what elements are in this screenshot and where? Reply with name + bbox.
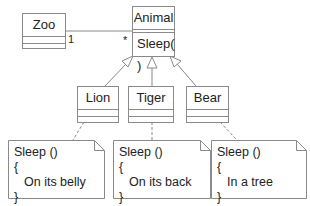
attributes-compartment (187, 110, 228, 117)
attributes-compartment (78, 110, 118, 117)
note-line: } (14, 190, 104, 205)
class-name: Bear (187, 87, 228, 110)
inheritance-arrow-icon (122, 56, 133, 67)
operation-sleep: Sleep( ) (133, 33, 174, 77)
note-line: { (119, 160, 210, 175)
operations-compartment (23, 44, 65, 50)
note-line: } (217, 190, 306, 205)
class-bear[interactable]: Bear (186, 86, 229, 123)
note-line: Sleep () (119, 145, 210, 160)
note-line: { (217, 160, 306, 175)
note-line: Sleep () (217, 145, 306, 160)
generalization-line-bear (177, 64, 196, 86)
note-anchor-bear (220, 122, 237, 140)
class-name: Animal (133, 7, 174, 30)
note-tiger: Sleep () { On its back } (114, 141, 210, 199)
class-animal[interactable]: Animal Sleep( ) (132, 6, 175, 57)
generalization-line-lion (105, 64, 126, 86)
note-line: In a tree (217, 175, 306, 190)
class-name: Tiger (129, 87, 173, 110)
operations-compartment (78, 117, 118, 123)
class-name: Lion (78, 87, 118, 110)
note-lion: Sleep () { On its belly } (9, 141, 104, 199)
note-bear: Sleep () { In a tree } (212, 141, 306, 199)
note-anchor-lion (73, 122, 84, 140)
note-line: Sleep () (14, 145, 104, 160)
multiplicity-animal: * (123, 34, 127, 46)
note-line: On its belly (14, 175, 104, 190)
attributes-compartment (129, 110, 173, 117)
operations-compartment (129, 117, 173, 123)
class-tiger[interactable]: Tiger (128, 86, 174, 123)
operations-compartment (187, 117, 228, 123)
class-lion[interactable]: Lion (77, 86, 119, 123)
multiplicity-zoo: 1 (68, 33, 74, 45)
attributes-compartment (23, 37, 65, 44)
class-zoo[interactable]: Zoo (22, 13, 66, 49)
note-line: { (14, 160, 104, 175)
note-line: On its back (119, 175, 210, 190)
class-name: Zoo (23, 14, 65, 37)
note-line: } (119, 190, 210, 205)
